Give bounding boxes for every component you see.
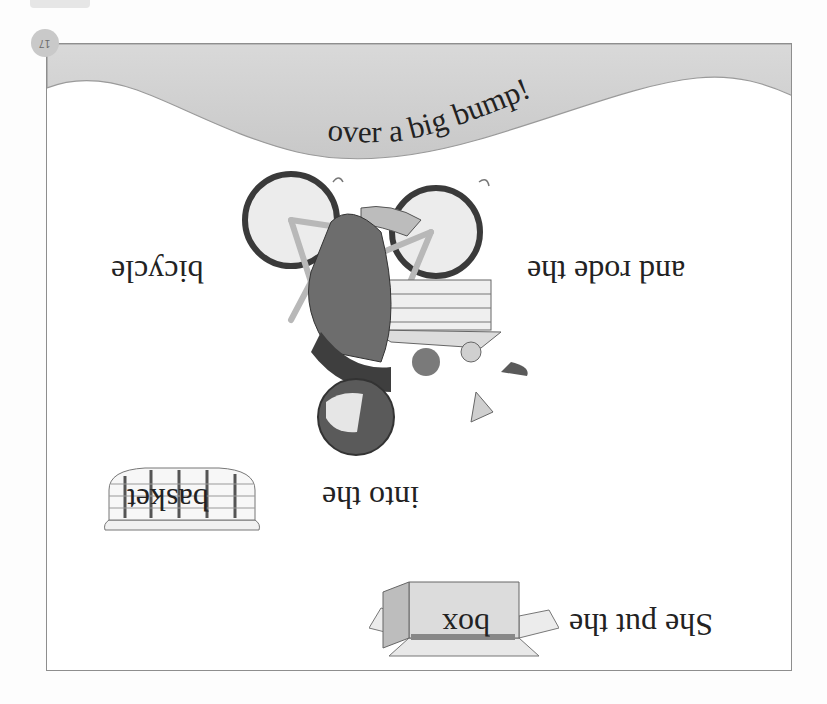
page-number-badge: 17: [31, 29, 59, 57]
picture-word-basket: basket: [127, 484, 209, 516]
picture-word-box: box: [442, 609, 490, 641]
scan-edge: [30, 0, 90, 8]
story-page-frame: over a big bump! She put the box into th…: [46, 43, 792, 671]
story-line-2-text: into the: [322, 482, 419, 514]
page-number: 17: [39, 38, 50, 49]
picture-word-bicycle: bicycle: [111, 256, 203, 288]
svg-text:over a big bump!: over a big bump!: [326, 71, 534, 150]
story-line-1-text: She put the: [569, 609, 713, 641]
girl-falling-off-bicycle-illustration: [231, 162, 551, 462]
story-line-4-text: over a big bump!: [326, 71, 534, 150]
